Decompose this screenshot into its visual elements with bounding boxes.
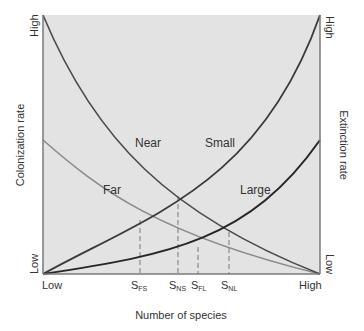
label-s-ns: SNS bbox=[169, 279, 186, 292]
label-s-fs: SFS bbox=[131, 279, 148, 292]
label-large: Large bbox=[240, 183, 271, 197]
s-fs-sub: FS bbox=[138, 285, 147, 292]
label-small: Small bbox=[205, 136, 235, 150]
x-axis-title: Number of species bbox=[135, 309, 227, 321]
label-far: Far bbox=[103, 183, 121, 197]
label-s-nl: SNL bbox=[221, 279, 237, 292]
y-left-axis-title: Colonization rate bbox=[14, 104, 26, 187]
s-nl-main: S bbox=[221, 279, 228, 291]
island-biogeography-chart: Near Small Far Large Low High SFS SNS SF… bbox=[0, 0, 364, 331]
s-fl-main: S bbox=[191, 279, 198, 291]
y-right-low-label: Low bbox=[324, 254, 336, 274]
y-left-low-label: Low bbox=[28, 254, 40, 274]
x-low-label: Low bbox=[42, 279, 62, 291]
s-fs-main: S bbox=[131, 279, 138, 291]
s-ns-main: S bbox=[169, 279, 176, 291]
s-ns-sub: NS bbox=[176, 285, 186, 292]
y-right-high-label: High bbox=[324, 16, 336, 39]
label-near: Near bbox=[135, 136, 161, 150]
label-s-fl: SFL bbox=[191, 279, 207, 292]
y-right-axis-title: Extinction rate bbox=[338, 110, 350, 180]
x-high-label: High bbox=[299, 279, 322, 291]
plot-area bbox=[43, 15, 320, 274]
y-left-high-label: High bbox=[28, 14, 40, 37]
s-nl-sub: NL bbox=[228, 285, 237, 292]
s-fl-sub: FL bbox=[198, 285, 206, 292]
